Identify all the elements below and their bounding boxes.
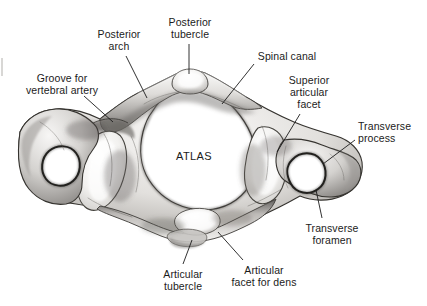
label-posterior-tubercle: Posterior tubercle — [158, 16, 222, 40]
label-articular-tubercle: Articular tubercle — [148, 268, 218, 292]
label-transverse-foramen: Transverse foramen — [298, 222, 366, 246]
label-posterior-arch: Posterior arch — [88, 28, 150, 52]
label-superior-articular-facet: Superior articular facet — [278, 74, 340, 110]
leader-articular-facet-for-dens — [218, 232, 243, 260]
label-spinal-canal: Spinal canal — [252, 50, 322, 62]
label-transverse-process: Transverse process — [358, 120, 426, 144]
figure-canvas: Groove for vertebral arteryPosterior arc… — [0, 0, 427, 306]
center-title-atlas: ATLAS — [152, 150, 236, 162]
label-articular-facet-for-dens: Articular facet for dens — [222, 264, 306, 288]
leader-posterior-arch — [126, 56, 147, 98]
label-groove-for-vertebral-artery: Groove for vertebral artery — [12, 72, 112, 96]
